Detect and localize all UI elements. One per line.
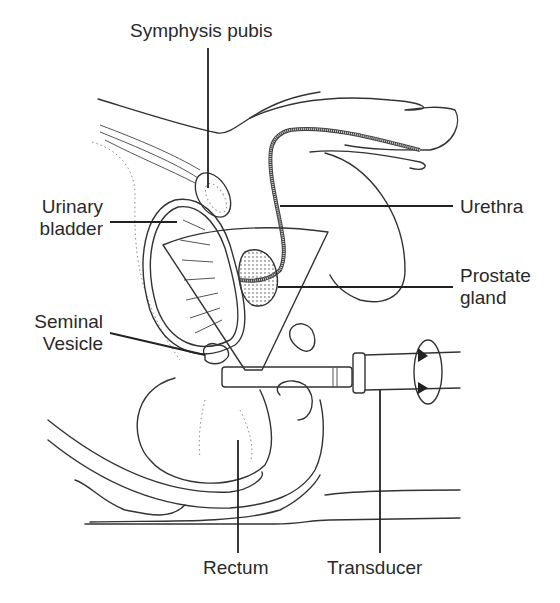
rectum-fold-2: [240, 410, 252, 462]
rectum-shape: [137, 378, 271, 483]
label-transducer: Transducer: [327, 557, 422, 579]
label-rectum: Rectum: [203, 557, 268, 579]
rotation-arrow-icon: [414, 340, 442, 404]
abdominal-wall: [98, 92, 320, 133]
label-urethra: Urethra: [460, 196, 523, 218]
pelvic-fascia: [100, 125, 200, 170]
rectum-fold: [199, 400, 205, 458]
sacral-curve-2: [48, 400, 323, 508]
label-seminal-vesicle-line2: Vesicle: [20, 333, 103, 355]
label-prostate-line2: gland: [460, 287, 507, 309]
thigh-line: [325, 490, 460, 495]
transducer-grip-ring: [353, 353, 365, 393]
transducer-handle: [365, 352, 460, 390]
label-urinary-bladder-line1: Urinary: [30, 196, 103, 218]
pelvic-fascia-2: [100, 132, 198, 178]
label-symphysis-pubis: Symphysis pubis: [130, 20, 273, 42]
perineum-line: [90, 475, 320, 522]
prostate-gland-shape: [239, 250, 278, 306]
pelvic-fascia-3: [105, 140, 195, 183]
label-prostate-line1: Prostate: [460, 265, 531, 287]
scrotum: [325, 153, 405, 302]
label-urinary-bladder-line2: bladder: [30, 218, 103, 240]
bladder-inner: [150, 207, 237, 347]
testis-shape: [290, 324, 315, 351]
label-leaders: [110, 48, 453, 553]
penis-outline: [250, 98, 458, 150]
label-seminal-vesicle-line1: Seminal: [20, 311, 103, 333]
